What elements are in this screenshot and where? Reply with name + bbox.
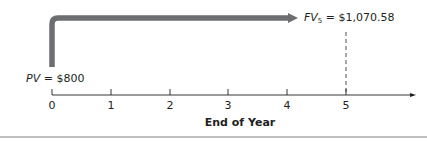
axis-ticks [52,89,346,95]
pv-equals: = [44,72,53,85]
fv-equals: = [326,11,335,24]
compounding-arrow [52,18,290,67]
tick-label-4: 4 [284,100,291,111]
pv-value: $800 [56,72,84,85]
axis-arrowhead-icon [410,93,416,97]
future-value-label: FV5 = $1,070.58 [304,12,395,25]
tick-label-3: 3 [225,100,232,111]
arrowhead-icon [288,13,298,23]
fv-subscript: 5 [318,17,322,25]
present-value-label: PV = $800 [26,73,84,84]
tick-label-0: 0 [49,100,56,111]
fv-symbol: FV [304,11,318,24]
tick-label-1: 1 [108,100,115,111]
tick-label-5: 5 [343,100,350,111]
pv-symbol: PV [26,72,40,85]
fv-value: $1,070.58 [339,11,395,24]
axis-title: End of Year [205,117,276,128]
tick-label-2: 2 [167,100,174,111]
